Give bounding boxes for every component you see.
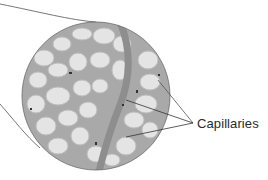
- capillary-diagram: [0, 0, 268, 180]
- micrograph-circle: [20, 20, 172, 176]
- capillaries-label: Capillaries: [197, 116, 259, 131]
- zoom-guide-line-top: [0, 4, 96, 22]
